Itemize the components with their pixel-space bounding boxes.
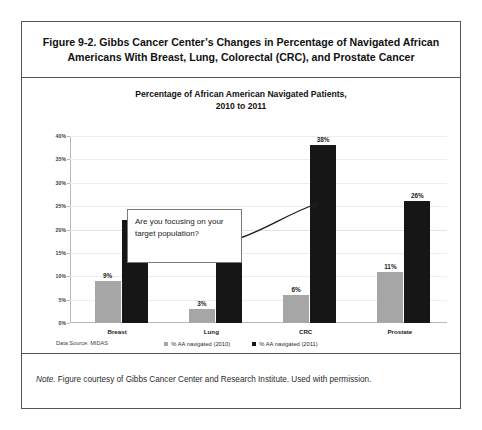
bar-lung-2010[interactable] xyxy=(189,309,215,323)
bar-crc-2011[interactable] xyxy=(310,145,336,323)
legend-swatch-icon xyxy=(252,342,256,346)
y-axis-tick-label: 30% xyxy=(42,180,66,186)
bar-value-label: 26% xyxy=(396,192,438,199)
figure-frame: Figure 9-2. Gibbs Cancer Center’s Change… xyxy=(21,21,461,409)
note-body: Figure courtesy of Gibbs Cancer Center a… xyxy=(56,375,372,384)
y-axis-tick-label: 5% xyxy=(42,297,66,303)
legend-label: % AA navigated (2010) xyxy=(171,341,230,347)
y-axis-tick-label: 0% xyxy=(42,320,66,326)
y-axis-tick-label: 40% xyxy=(42,133,66,139)
legend-label: % AA navigated (2011) xyxy=(259,341,318,347)
bar-value-label: 38% xyxy=(302,136,344,143)
figure-caption: Figure 9-2. Gibbs Cancer Center’s Change… xyxy=(22,22,460,78)
figure-note: Note. Figure courtesy of Gibbs Cancer Ce… xyxy=(22,352,460,408)
legend-item-2011[interactable]: % AA navigated (2011) xyxy=(252,341,318,347)
callout-annotation: Are you focusing on your target populati… xyxy=(127,209,242,263)
bar-prostate-2010[interactable] xyxy=(377,272,403,323)
y-axis-tick-label: 20% xyxy=(42,227,66,233)
x-axis-category-label: Prostate xyxy=(345,328,455,335)
y-axis-tick-label: 15% xyxy=(42,250,66,256)
bar-crc-2010[interactable] xyxy=(283,295,309,323)
figure-caption-text: Figure 9-2. Gibbs Cancer Center’s Change… xyxy=(34,35,448,64)
y-axis-tick-mark xyxy=(67,323,70,324)
y-axis-tick-label: 10% xyxy=(42,273,66,279)
figure-note-text: Note. Figure courtesy of Gibbs Cancer Ce… xyxy=(36,375,371,386)
chart-title: Percentage of African American Navigated… xyxy=(22,88,460,113)
y-axis-tick-label: 25% xyxy=(42,203,66,209)
chart-container: Percentage of African American Navigated… xyxy=(22,78,460,354)
note-prefix: Note. xyxy=(36,375,56,384)
bar-lung-2011[interactable] xyxy=(216,253,242,323)
chart-legend: % AA navigated (2010)% AA navigated (201… xyxy=(22,341,460,347)
legend-item-2010[interactable]: % AA navigated (2010) xyxy=(164,341,230,347)
y-axis-tick-label: 35% xyxy=(42,156,66,162)
bar-prostate-2011[interactable] xyxy=(404,201,430,323)
bar-group-prostate: 11%26%Prostate xyxy=(353,136,447,323)
chart-title-line-1: Percentage of African American Navigated… xyxy=(22,88,460,100)
bar-breast-2010[interactable] xyxy=(95,281,121,323)
legend-swatch-icon xyxy=(164,342,168,346)
bar-group-crc: 6%38%CRC xyxy=(259,136,353,323)
chart-title-line-2: 2010 to 2011 xyxy=(22,100,460,112)
